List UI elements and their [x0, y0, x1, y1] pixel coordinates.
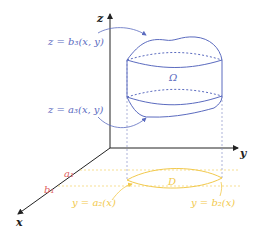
b1-label: b₁: [44, 184, 54, 195]
region-d: [58, 169, 240, 189]
y-axis-label: y: [239, 147, 248, 160]
triple-integral-diagram: z y x Ω z = b₃(x, y) z = a₃(x, y) D a₁ b…: [0, 0, 261, 231]
lower-curve-label: y = a₂(x): [71, 197, 116, 208]
a1-label: a₁: [64, 168, 74, 179]
lower-surface-arrow: [98, 117, 146, 128]
upper-surface-label: z = b₃(x, y): [47, 36, 104, 47]
upper-curve-arrow: [220, 182, 222, 196]
lower-surface: [127, 96, 222, 105]
omega-label: Ω: [168, 72, 177, 83]
upper-surface-arrow: [98, 28, 146, 35]
lower-surface-label: z = a₃(x, y): [47, 104, 104, 115]
z-axis-label: z: [96, 12, 104, 25]
upper-curve-label: y = b₂(x): [190, 197, 235, 208]
x-axis-label: x: [15, 216, 23, 229]
region-d-label: D: [167, 176, 176, 187]
